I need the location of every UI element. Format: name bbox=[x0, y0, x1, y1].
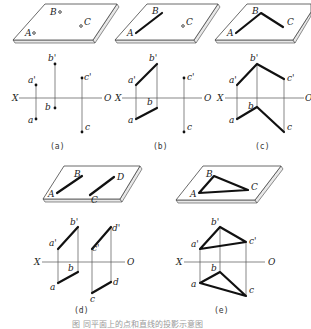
label-a: a bbox=[191, 279, 196, 289]
panel-caption-e: (e) bbox=[214, 306, 228, 315]
projection-figure: A B C X O a' b' c' a b c (a) bbox=[0, 0, 311, 329]
label-B: B bbox=[73, 169, 81, 179]
label-d: d bbox=[113, 277, 119, 287]
axis-x-label: X bbox=[216, 93, 224, 103]
label-A: A bbox=[189, 189, 197, 199]
label-a-prime: a' bbox=[28, 75, 36, 85]
label-c-prime: c' bbox=[187, 72, 195, 82]
polyline-a-b-c bbox=[237, 107, 284, 132]
label-B: B bbox=[205, 169, 213, 179]
label-C: C bbox=[186, 17, 193, 27]
panel-c: A B C X O a' b' c' a b c (c) bbox=[215, 4, 311, 151]
axis-x-label: X bbox=[33, 257, 41, 267]
label-B: B bbox=[151, 6, 159, 16]
line-ab bbox=[58, 272, 78, 283]
label-A: A bbox=[47, 189, 55, 199]
projection-d: X O a' b' c' d' a b c d bbox=[33, 217, 135, 304]
label-B: B bbox=[251, 6, 259, 16]
label-A: A bbox=[24, 28, 32, 38]
point-B bbox=[59, 11, 62, 14]
label-C: C bbox=[287, 17, 294, 27]
label-b: b bbox=[147, 97, 153, 107]
point-A bbox=[33, 32, 36, 35]
label-a: a bbox=[229, 115, 234, 125]
line-a-prime-b-prime bbox=[136, 64, 157, 85]
label-b-prime: b' bbox=[211, 217, 219, 227]
label-b: b bbox=[248, 101, 254, 111]
label-A: A bbox=[226, 28, 234, 38]
label-b: b bbox=[211, 263, 217, 273]
projection-e: X O a' b' c' a b c bbox=[175, 217, 276, 296]
point-C bbox=[80, 25, 83, 28]
label-a: a bbox=[128, 115, 133, 125]
plate-d: A B C D bbox=[43, 166, 142, 205]
axis-x-label: X bbox=[175, 257, 183, 267]
label-C: C bbox=[251, 182, 258, 192]
label-b-prime: b' bbox=[70, 217, 78, 227]
plate-edge bbox=[13, 40, 95, 43]
plate-a: A B C bbox=[13, 4, 119, 43]
projection-a: X O a' b' c' a b c bbox=[11, 53, 112, 133]
point-C bbox=[182, 25, 185, 28]
plate-c: A B C bbox=[215, 4, 311, 43]
label-c-prime: c' bbox=[249, 236, 257, 246]
label-a-prime: a' bbox=[191, 239, 199, 249]
label-a-prime: a' bbox=[49, 238, 57, 248]
label-b: b bbox=[68, 263, 74, 273]
label-a: a bbox=[28, 115, 33, 125]
axis-o-label: O bbox=[204, 93, 212, 103]
panel-a: A B C X O a' b' c' a b c (a) bbox=[11, 4, 119, 151]
plate-e: A B C bbox=[176, 166, 283, 203]
line-cd bbox=[92, 282, 111, 293]
label-c: c bbox=[90, 294, 95, 304]
panel-b: A B C X O a' b' c' a b c (b) bbox=[114, 4, 220, 151]
label-c: c bbox=[249, 285, 254, 295]
label-c-prime: c' bbox=[92, 243, 100, 253]
label-c: c bbox=[287, 122, 292, 132]
label-d-prime: d' bbox=[112, 223, 120, 233]
label-c: c bbox=[187, 122, 192, 132]
axis-o-label: O bbox=[104, 93, 112, 103]
label-a: a bbox=[50, 282, 55, 292]
projection-c: X O a' b' c' a b c bbox=[216, 53, 311, 132]
label-b: b bbox=[45, 102, 51, 112]
axis-o-label: O bbox=[268, 257, 276, 267]
line-ab bbox=[136, 108, 157, 119]
label-b-prime: b' bbox=[250, 53, 258, 63]
triangle-a-b-c bbox=[200, 272, 246, 296]
label-D: D bbox=[116, 172, 124, 182]
axis-x-label: X bbox=[114, 93, 122, 103]
label-c: c bbox=[85, 122, 90, 132]
panel-caption-a: (a) bbox=[50, 142, 64, 151]
label-C: C bbox=[91, 195, 98, 205]
axis-o-label: O bbox=[127, 257, 135, 267]
panel-caption-b: (b) bbox=[153, 142, 167, 151]
triangle-a-b-c-prime bbox=[200, 227, 246, 249]
figure-caption: 图 同平面上的点和直线的投影示意图 bbox=[72, 319, 203, 329]
axis-x-label: X bbox=[11, 93, 19, 103]
panel-e: A B C X O a' b' c' a b c (e) bbox=[175, 166, 283, 315]
panel-caption-c: (c) bbox=[255, 142, 269, 151]
label-a-prime: a' bbox=[229, 75, 237, 85]
label-A: A bbox=[126, 28, 134, 38]
projection-b: X O a' b' c' a b c bbox=[114, 53, 212, 133]
panel-caption-d: (d) bbox=[74, 306, 88, 315]
label-c-prime: c' bbox=[84, 72, 92, 82]
label-a-prime: a' bbox=[128, 75, 136, 85]
panel-d: A B C D X O a' b' c' d' a b c d (d) bbox=[33, 166, 142, 315]
line-a-prime-b-prime bbox=[58, 227, 78, 249]
label-B: B bbox=[49, 7, 57, 17]
label-b-prime: b' bbox=[48, 53, 56, 63]
label-c-prime: c' bbox=[287, 73, 295, 83]
label-C: C bbox=[84, 17, 91, 27]
plate-b: A B C bbox=[115, 4, 220, 43]
axis-o-label: O bbox=[305, 93, 311, 103]
label-b-prime: b' bbox=[149, 53, 157, 63]
polyline-a-b-c-prime bbox=[237, 64, 284, 85]
